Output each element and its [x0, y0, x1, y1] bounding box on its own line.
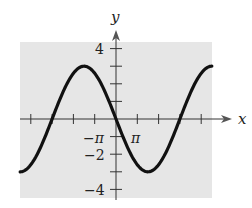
x-tick-label-neg-pi: −π [83, 130, 105, 146]
x-tick-label-pi: π [130, 130, 141, 146]
sine-chart: x y −π π 4 −2 −4 [0, 0, 252, 208]
x-axis-label: x [238, 110, 247, 128]
y-axis-label: y [110, 8, 120, 26]
y-tick-label-4: 4 [95, 41, 104, 57]
y-tick-label-neg2: −2 [84, 147, 105, 163]
y-tick-label-neg4: −4 [84, 182, 105, 198]
